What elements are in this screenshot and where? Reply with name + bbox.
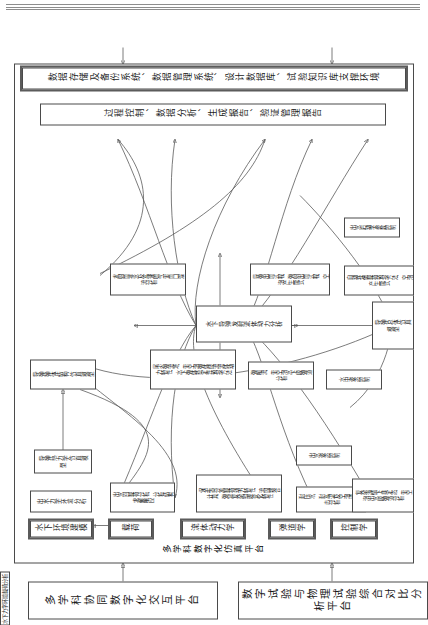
platform-side-label: 多学科数字化仿真平台 <box>14 541 414 557</box>
node-protect-cover: 保护罩分离载荷动力特性、流固耦合计算、弹穹复杂物理变化特性 <box>196 474 282 512</box>
node-missile-overall-model: 导弹总体仿真模型 <box>372 301 414 349</box>
node-thermal-model: 导弹热力学仿真模型 <box>34 449 92 473</box>
node-structure-model: 导弹弹体结构仿真模型 <box>30 359 96 389</box>
node-auto-compensation: 自动补偿载荷预报方法、空泡产生能式 <box>344 265 414 295</box>
panel-process-control: 过程控制、数据分析、生成报告、验证管理报告 <box>40 103 386 125</box>
node-underwater-attitude: 水中姿态控制 <box>326 369 382 389</box>
category-load: 载荷 <box>110 520 152 537</box>
node-multi-bubble: 尾火弹流场、带空泡弹体绕流流体动力特性、水下弹体稳定性预报方法 <box>150 349 236 389</box>
category-control: 控制学 <box>332 520 376 537</box>
node-out-water-attitude: 出水姿态控制 <box>296 445 352 465</box>
node-out-water-struct: 出水回载荷分析、分析结构求解响应 <box>110 482 175 512</box>
node-cavity-ballistic: 弹噴流、带空泡水下段弹道分析 <box>248 361 314 389</box>
node-out-water-thermal: 出水力学环境分析 <box>30 490 92 512</box>
node-complex-sea-state: 复杂海情下非定态、带空泡出水段弹道分析 <box>352 478 414 512</box>
node-underwater-force-env: 水下力学环境载荷分析 <box>0 571 10 625</box>
category-underwater-env: 水下环境建模 <box>30 520 92 537</box>
category-ballistics: 弹道学 <box>270 520 314 537</box>
node-out-water-traj: 出水后动学参数控制 <box>344 217 400 237</box>
category-fluid-dynamics: 流体动力学 <box>182 520 244 537</box>
bottom-banner: 数字试验与物理试验综合对比分析平台 <box>238 581 428 619</box>
node-hub-underwater-launch: 水下导弹发射流体动力分析 <box>196 305 292 342</box>
panel-data-storage: 数据存储及备份系统、数据管理系统、设计数据库、试验知识库支撑环境 <box>22 67 406 89</box>
node-measure-water: 导弹出筒过程、弹射出筒过程、空泡产生能式 <box>250 263 330 295</box>
node-launch-tube-flow: 发射筒排水及高速喷气带筒口混流分析 <box>110 263 186 295</box>
top-banner: 多学科协同数字化交互平台 <box>28 581 218 619</box>
